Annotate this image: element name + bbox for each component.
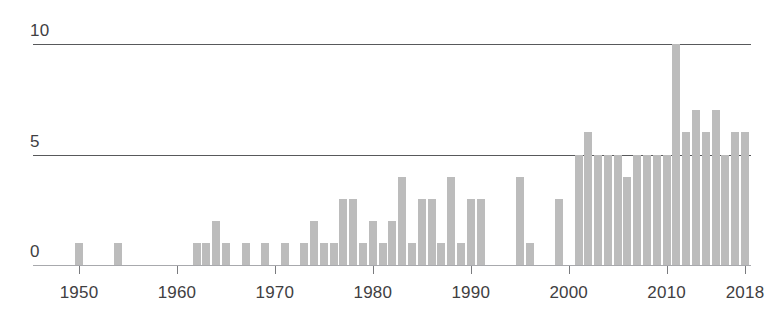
- x-axis-tick: [471, 266, 472, 274]
- bar: [418, 199, 426, 265]
- x-axis-tick: [569, 266, 570, 274]
- bar: [202, 243, 210, 265]
- bar: [408, 243, 416, 265]
- bar: [516, 177, 524, 265]
- bars-group: [0, 0, 775, 326]
- bar: [193, 243, 201, 265]
- x-axis-tick-label: 1990: [451, 283, 490, 303]
- bar: [349, 199, 357, 265]
- x-axis-tick-label: 2000: [549, 283, 588, 303]
- bar: [281, 243, 289, 265]
- bar: [702, 132, 710, 265]
- bar: [575, 155, 583, 266]
- bar: [721, 155, 729, 266]
- bar: [633, 155, 641, 266]
- bar: [682, 132, 690, 265]
- bar: [339, 199, 347, 265]
- bar: [261, 243, 269, 265]
- bar: [731, 132, 739, 265]
- bar: [114, 243, 122, 265]
- x-axis-tick-label: 1980: [354, 283, 393, 303]
- bar: [643, 155, 651, 266]
- x-axis-tick-label: 1960: [158, 283, 197, 303]
- x-axis-tick: [177, 266, 178, 274]
- x-axis-line: [33, 265, 751, 266]
- bar: [653, 155, 661, 266]
- bar: [457, 243, 465, 265]
- bar: [672, 44, 680, 265]
- bar: [359, 243, 367, 265]
- x-axis-tick-label: 2010: [647, 283, 686, 303]
- bar: [477, 199, 485, 265]
- bar: [242, 243, 250, 265]
- x-axis-tick: [667, 266, 668, 274]
- bar: [526, 243, 534, 265]
- bar: [212, 221, 220, 265]
- bar: [437, 243, 445, 265]
- x-axis-tick-label: 1970: [256, 283, 295, 303]
- bar: [369, 221, 377, 265]
- bar: [594, 155, 602, 266]
- bar: [310, 221, 318, 265]
- bar: [379, 243, 387, 265]
- bar: [584, 132, 592, 265]
- bar: [741, 132, 749, 265]
- bar: [398, 177, 406, 265]
- bar: [604, 155, 612, 266]
- bar: [320, 243, 328, 265]
- x-axis-tick: [275, 266, 276, 274]
- x-axis-tick: [373, 266, 374, 274]
- x-axis-tick-label: 2018: [726, 283, 765, 303]
- bar: [300, 243, 308, 265]
- plot-area: 0510 19501960197019801990200020102018: [0, 0, 775, 326]
- x-axis-tick-label: 1950: [60, 283, 99, 303]
- bar: [75, 243, 83, 265]
- bar: [428, 199, 436, 265]
- bar: [330, 243, 338, 265]
- bar: [222, 243, 230, 265]
- bar: [467, 199, 475, 265]
- bar: [555, 199, 563, 265]
- bar: [447, 177, 455, 265]
- bar: [663, 155, 671, 266]
- x-axis-tick: [745, 266, 746, 274]
- bar-chart: 0510 19501960197019801990200020102018: [0, 0, 775, 326]
- bar: [692, 110, 700, 265]
- bar: [712, 110, 720, 265]
- bar: [623, 177, 631, 265]
- x-axis-tick: [79, 266, 80, 274]
- bar: [614, 155, 622, 266]
- bar: [388, 221, 396, 265]
